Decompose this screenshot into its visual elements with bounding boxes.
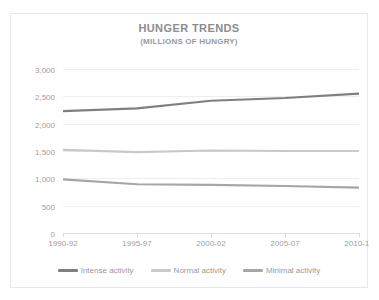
x-axis-labels-group: 1990-921995-972000-022005-072010-12 xyxy=(48,239,369,248)
series-lines-group xyxy=(63,94,359,188)
legend-item-minimal-activity[interactable]: Minimal activity xyxy=(243,266,320,275)
x-axis-tick-label: 2010-12 xyxy=(344,239,369,248)
legend-label: Minimal activity xyxy=(266,266,320,275)
y-axis-tick-label: 0 xyxy=(51,230,56,239)
legend-item-normal-activity[interactable]: Normal activity xyxy=(151,266,226,275)
x-axis-tick-label: 1995-97 xyxy=(122,239,152,248)
legend-swatch-icon xyxy=(151,269,171,271)
y-axis-tick-label: 2,500 xyxy=(35,93,56,102)
y-axis-tick-label: 500 xyxy=(42,203,56,212)
line-chart-plot: 3,0002,5002,0001,5001,0005000 1990-92199… xyxy=(11,14,369,289)
series-line-minimal-activity xyxy=(63,179,359,187)
y-axis-labels-group: 3,0002,5002,0001,5001,0005000 xyxy=(35,66,56,239)
legend-label: Intense activity xyxy=(81,266,134,275)
legend-label: Normal activity xyxy=(174,266,226,275)
x-axis-tick-label: 1990-92 xyxy=(48,239,78,248)
chart-legend: Intense activityNormal activityMinimal a… xyxy=(11,266,367,275)
legend-swatch-icon xyxy=(243,269,263,271)
chart-card: HUNGER TRENDS (MILLIONS OF HUNGRY) 3,000… xyxy=(10,13,368,288)
legend-swatch-icon xyxy=(58,269,78,271)
x-axis-tick-label: 2000-02 xyxy=(196,239,226,248)
y-axis-tick-label: 3,000 xyxy=(35,66,56,75)
y-axis-tick-label: 1,500 xyxy=(35,148,56,157)
y-axis-tick-label: 2,000 xyxy=(35,121,56,130)
x-axis-tick-label: 2005-07 xyxy=(270,239,300,248)
legend-item-intense-activity[interactable]: Intense activity xyxy=(58,266,134,275)
y-axis-tick-label: 1,000 xyxy=(35,175,56,184)
